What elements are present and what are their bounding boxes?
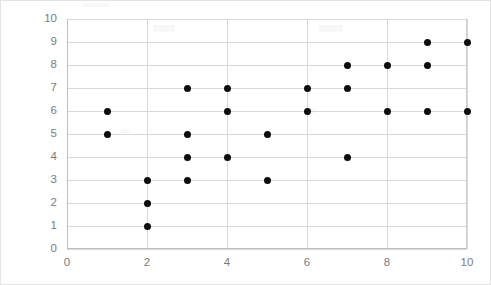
gridline-vertical <box>307 19 308 249</box>
scatter-point <box>104 131 111 138</box>
plot-right-edge <box>466 19 467 249</box>
scatter-point <box>184 131 191 138</box>
scatter-point <box>224 85 231 92</box>
gridline-horizontal <box>67 19 467 20</box>
y-axis-tick-label: 1 <box>51 220 57 232</box>
y-axis-line <box>67 19 68 249</box>
scatter-point <box>184 177 191 184</box>
y-axis-tick-label: 9 <box>51 36 57 48</box>
scatter-point <box>224 154 231 161</box>
plot-area <box>67 19 467 249</box>
scatter-point <box>224 108 231 115</box>
scatter-point <box>304 108 311 115</box>
x-axis-tick-label: 6 <box>304 257 310 269</box>
gridline-horizontal <box>67 42 467 43</box>
scatter-point <box>184 154 191 161</box>
scatter-point <box>104 108 111 115</box>
gridline-horizontal <box>67 226 467 227</box>
gridline-horizontal <box>67 88 467 89</box>
scatter-point <box>424 62 431 69</box>
scan-artifact <box>83 3 109 7</box>
gridline-vertical <box>387 19 388 249</box>
x-axis-line <box>67 248 467 249</box>
y-axis-tick-labels: 012345678910 <box>27 19 57 249</box>
scatter-point <box>424 39 431 46</box>
gridline-horizontal <box>67 203 467 204</box>
scatter-point <box>344 154 351 161</box>
scatter-point <box>304 85 311 92</box>
scatter-point <box>144 223 151 230</box>
y-axis-tick-label: 3 <box>51 174 57 186</box>
gridline-vertical <box>147 19 148 249</box>
gridline-horizontal <box>67 111 467 112</box>
y-axis-tick-label: 10 <box>44 13 57 25</box>
y-axis-tick-label: 8 <box>51 59 57 71</box>
x-axis-tick-label: 10 <box>461 257 474 269</box>
y-axis-tick-label: 5 <box>51 128 57 140</box>
gridline-horizontal <box>67 249 467 250</box>
scatter-point <box>464 108 471 115</box>
scatter-point <box>144 177 151 184</box>
x-axis-tick-label: 0 <box>64 257 70 269</box>
scatter-point <box>384 62 391 69</box>
scatter-point <box>344 85 351 92</box>
y-axis-tick-label: 7 <box>51 82 57 94</box>
scatter-point <box>264 131 271 138</box>
scatter-point <box>264 177 271 184</box>
x-axis-tick-label: 4 <box>224 257 230 269</box>
y-axis-tick-label: 6 <box>51 105 57 117</box>
scatter-point <box>144 200 151 207</box>
y-axis-tick-label: 2 <box>51 197 57 209</box>
scatter-point <box>384 108 391 115</box>
scatter-point <box>464 39 471 46</box>
scatter-point <box>344 62 351 69</box>
y-axis-tick-label: 0 <box>51 243 57 255</box>
gridline-vertical <box>227 19 228 249</box>
y-axis-tick-label: 4 <box>51 151 57 163</box>
gridline-horizontal <box>67 157 467 158</box>
gridline-vertical <box>467 19 468 249</box>
gridline-horizontal <box>67 65 467 66</box>
scatter-point <box>184 85 191 92</box>
x-axis-tick-label: 2 <box>144 257 150 269</box>
x-axis-tick-labels: 0246810 <box>67 257 467 273</box>
x-axis-tick-label: 8 <box>384 257 390 269</box>
scatter-point <box>424 108 431 115</box>
chart-frame: 012345678910 0246810 <box>0 0 491 285</box>
